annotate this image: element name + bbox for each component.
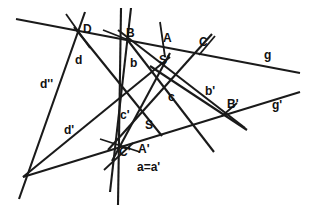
line-label-c: c xyxy=(168,91,175,103)
point-label-C: C xyxy=(199,36,208,48)
line-label-d: d xyxy=(75,54,82,66)
line-g xyxy=(16,19,300,73)
point-label-S: S xyxy=(145,119,153,131)
point-label-B: B xyxy=(126,27,135,39)
line-label-g: g xyxy=(264,49,271,61)
line-label-d-prime: d' xyxy=(64,124,74,136)
point-label-A-prime: A' xyxy=(138,143,150,155)
point-label-A: A xyxy=(163,32,172,44)
line-label-b: b xyxy=(130,57,137,69)
line-label-b-prime: b' xyxy=(205,85,215,97)
diagram-canvas xyxy=(0,0,311,212)
line-label-c-prime: c' xyxy=(120,109,130,121)
line-label-d-double-prime: d'' xyxy=(40,78,53,90)
point-label-D: D xyxy=(83,23,92,35)
geometry-figure: D B A C S' B' S C' A' d d'' d' b b' c c'… xyxy=(0,0,311,212)
point-label-C-prime: C' xyxy=(119,146,131,158)
point-label-B-prime: B' xyxy=(227,98,239,110)
line-label-g-prime: g' xyxy=(272,99,282,111)
point-label-S-prime: S' xyxy=(159,54,170,66)
line-label-a-equals-a-prime: a=a' xyxy=(137,161,160,173)
